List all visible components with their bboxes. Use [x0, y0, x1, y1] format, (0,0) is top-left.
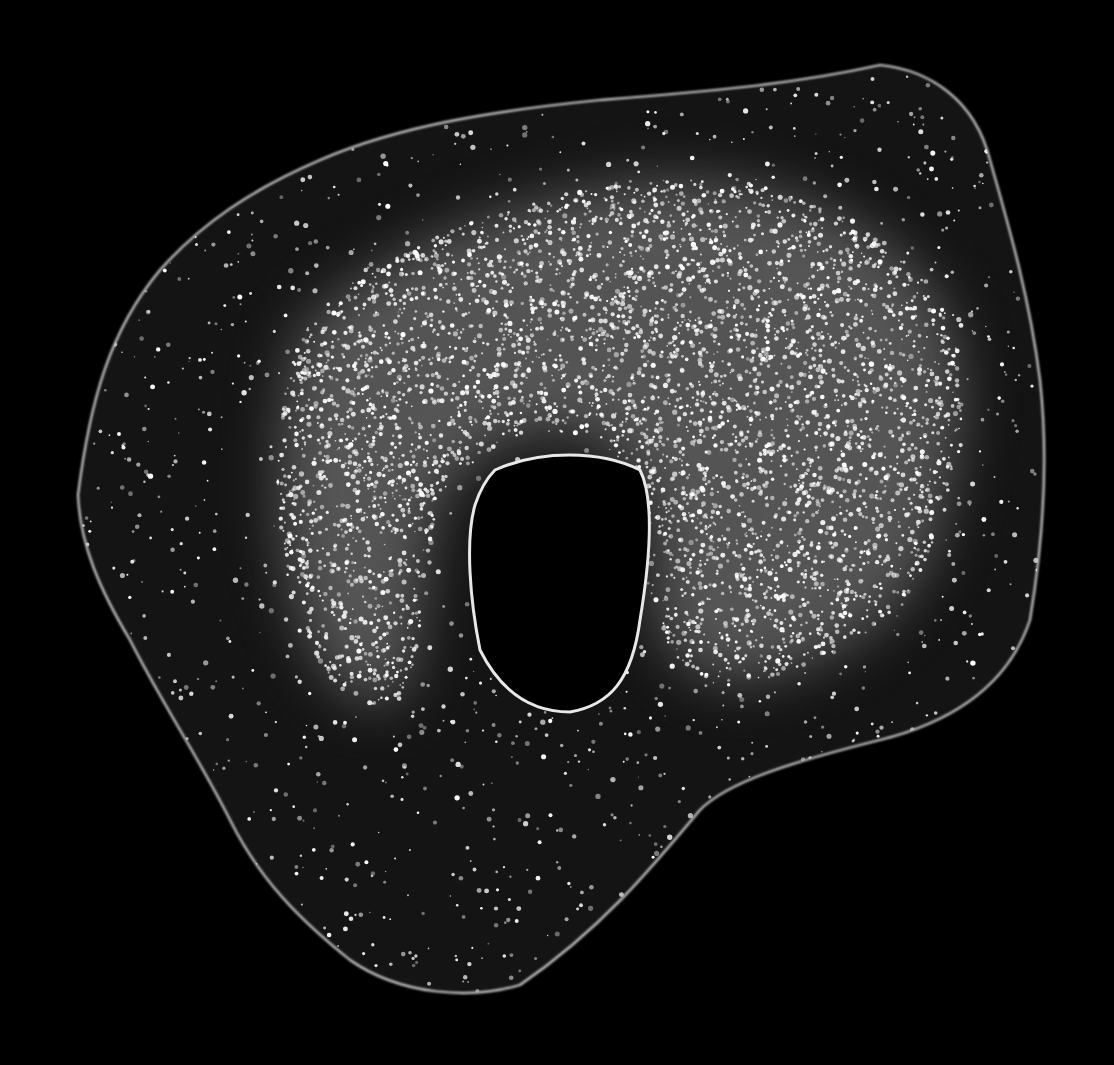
granule: [850, 259, 853, 262]
granule: [639, 232, 642, 235]
granule: [605, 312, 607, 314]
granule: [644, 342, 649, 347]
granule: [777, 271, 781, 275]
granule: [773, 88, 777, 92]
granule: [429, 362, 433, 366]
granule: [784, 455, 786, 457]
granule: [263, 564, 267, 568]
granule: [735, 314, 737, 316]
granule: [615, 289, 620, 294]
granule: [863, 237, 868, 242]
granule: [662, 622, 664, 624]
granule: [390, 794, 394, 798]
granule: [506, 144, 508, 146]
granule: [412, 523, 414, 525]
granule: [410, 655, 413, 658]
granule: [617, 436, 619, 438]
granule: [723, 621, 728, 626]
granule: [983, 534, 986, 537]
granule: [735, 480, 738, 483]
granule: [358, 314, 360, 316]
granule: [467, 981, 469, 983]
granule: [342, 683, 346, 687]
granule: [552, 290, 554, 292]
granule: [718, 380, 721, 383]
granule: [364, 601, 367, 604]
granule: [426, 684, 429, 687]
granule: [857, 380, 859, 382]
granule: [610, 710, 613, 713]
granule: [285, 447, 287, 449]
granule: [526, 238, 528, 240]
granule: [658, 334, 663, 339]
granule: [714, 238, 718, 242]
granule: [549, 813, 553, 817]
granule: [401, 637, 405, 641]
granule: [839, 672, 842, 675]
granule: [431, 239, 435, 243]
granule: [735, 450, 739, 454]
granule: [982, 464, 984, 466]
granule: [640, 652, 645, 657]
granule: [797, 282, 799, 284]
granule: [341, 464, 346, 469]
granule: [597, 285, 602, 290]
granule: [300, 572, 305, 577]
granule: [372, 572, 375, 575]
granule: [798, 440, 800, 442]
granule: [404, 498, 407, 501]
granule: [607, 246, 609, 248]
granule: [403, 561, 406, 564]
granule: [654, 315, 657, 318]
granule: [506, 422, 510, 426]
granule: [385, 501, 387, 503]
granule: [336, 505, 338, 507]
granule: [555, 418, 560, 423]
granule: [762, 521, 766, 525]
granule: [88, 530, 91, 533]
granule: [394, 283, 397, 286]
granule: [473, 360, 476, 363]
granule: [732, 221, 734, 223]
granule: [388, 281, 390, 283]
granule: [715, 609, 717, 611]
granule: [317, 630, 320, 633]
granule: [147, 310, 150, 313]
granule: [782, 219, 787, 224]
granule: [603, 343, 605, 345]
granule: [711, 230, 714, 233]
granule: [629, 251, 632, 254]
granule: [860, 550, 864, 554]
granule: [866, 245, 870, 249]
granule: [851, 229, 856, 234]
granule: [786, 253, 791, 258]
granule: [421, 516, 423, 518]
granule: [667, 317, 669, 319]
granule: [566, 206, 568, 208]
granule: [538, 249, 542, 253]
granule: [399, 598, 404, 603]
granule: [760, 654, 763, 657]
granule: [520, 398, 524, 402]
granule: [681, 237, 685, 241]
granule: [417, 161, 419, 163]
granule: [416, 599, 418, 601]
granule: [403, 646, 406, 649]
granule: [717, 315, 721, 319]
granule: [411, 637, 414, 640]
granule: [764, 470, 768, 474]
granule: [372, 439, 375, 442]
granule: [608, 364, 609, 365]
granule: [316, 362, 320, 366]
granule: [680, 246, 682, 248]
granule: [638, 834, 640, 836]
granule: [802, 462, 806, 466]
granule: [418, 270, 423, 275]
granule: [755, 415, 757, 417]
granule: [722, 360, 724, 362]
granule: [143, 481, 145, 483]
granule: [341, 528, 343, 530]
granule: [767, 210, 771, 214]
granule: [534, 418, 538, 422]
granule: [699, 486, 704, 491]
